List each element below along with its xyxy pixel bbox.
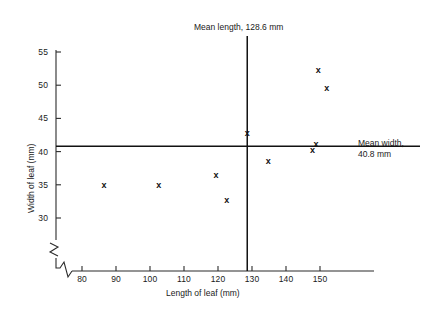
data-point-marker: x [156,180,161,190]
data-points-group: xxxxxxxxxx [102,65,330,206]
x-tick-label: 150 [309,274,331,284]
data-point-marker: x [266,156,271,166]
x-axis-break-icon [56,258,72,277]
x-tick-label: 140 [275,274,297,284]
data-point-marker: x [224,195,229,205]
mean-width-annotation-line2: 40.8 mm [358,149,404,160]
y-tick-label: 45 [26,113,48,123]
y-axis-break-icon [50,243,58,256]
mean-length-annotation: Mean length, 128.6 mm [194,22,283,32]
x-tick-label: 110 [173,274,195,284]
data-point-marker: x [313,139,318,149]
scatter-plot-figure: xxxxxxxxxx 303540455055 8090100110120130… [0,0,426,309]
data-point-marker: x [245,128,250,138]
data-point-marker: x [316,65,321,75]
x-axis-title: Length of leaf (mm) [166,288,240,298]
mean-width-annotation-line1: Mean width, [358,138,404,149]
y-axis-title: Width of leaf (mm) [26,144,36,213]
data-point-marker: x [213,170,218,180]
mean-width-annotation: Mean width, 40.8 mm [358,138,404,161]
y-tick-label: 50 [26,80,48,90]
data-point-marker: x [324,83,329,93]
x-tick-label: 120 [207,274,229,284]
tick-marks-group [56,52,320,271]
x-tick-label: 90 [105,274,127,284]
y-tick-label: 30 [26,213,48,223]
x-tick-label: 80 [71,274,93,284]
data-point-marker: x [102,180,107,190]
x-tick-label: 130 [241,274,263,284]
x-tick-label: 100 [139,274,161,284]
y-tick-label: 55 [26,47,48,57]
